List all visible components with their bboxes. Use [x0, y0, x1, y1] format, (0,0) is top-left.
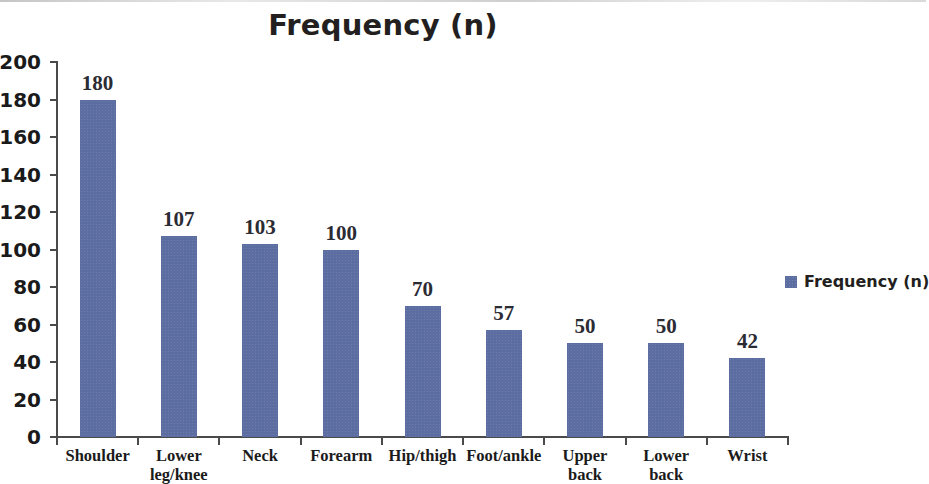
y-axis-tick-label: 180 [0, 88, 41, 112]
y-axis-tick-label: 160 [0, 125, 41, 149]
bar [486, 330, 522, 437]
y-axis-tick-label: 80 [13, 275, 41, 299]
x-axis-category-label: Upper back [544, 446, 625, 484]
bar-value-label: 180 [58, 71, 138, 96]
bar [161, 236, 197, 437]
x-axis-category-label: Lower back [626, 446, 707, 484]
y-axis-tick: 180 [50, 99, 57, 101]
y-axis-tick: 200 [50, 61, 57, 63]
x-axis-category-label: Foot/ankle [463, 446, 544, 465]
scan-artifact-line [0, 0, 926, 2]
x-axis-category-label: Lower leg/knee [138, 446, 219, 484]
bar-value-label: 57 [464, 301, 544, 326]
legend-swatch-icon [785, 276, 797, 288]
y-axis-tick: 80 [50, 286, 57, 288]
chart-legend: Frequency (n) [785, 272, 929, 291]
y-axis-tick-label: 20 [13, 388, 41, 412]
x-axis-category-label: Forearm [301, 446, 382, 465]
bar [323, 250, 359, 438]
y-axis-tick-label: 100 [0, 238, 41, 262]
y-axis-tick: 160 [50, 136, 57, 138]
y-axis-tick: 100 [50, 249, 57, 251]
y-axis-tick-label: 140 [0, 163, 41, 187]
x-axis-category-label: Shoulder [57, 446, 138, 465]
bar [242, 244, 278, 437]
y-axis-tick: 120 [50, 211, 57, 213]
bar [405, 306, 441, 437]
chart-title: Frequency (n) [0, 8, 926, 42]
plot-area: 2001801601401201008060402001801071031007… [57, 62, 788, 437]
y-axis-tick: 20 [50, 399, 57, 401]
x-axis-tick [137, 437, 139, 445]
x-axis-tick [462, 437, 464, 445]
bar-value-label: 103 [220, 215, 300, 240]
y-axis-tick-label: 40 [13, 350, 41, 374]
bar [729, 358, 765, 437]
y-axis-tick-label: 60 [13, 313, 41, 337]
x-axis-tick [218, 437, 220, 445]
x-axis-category-label: Neck [219, 446, 300, 465]
bar [80, 100, 116, 438]
bar-value-label: 50 [626, 314, 706, 339]
x-axis-tick [56, 437, 58, 445]
legend-label: Frequency (n) [804, 272, 929, 291]
x-axis-tick [300, 437, 302, 445]
y-axis-tick-label: 200 [0, 50, 41, 74]
y-axis-tick: 140 [50, 174, 57, 176]
x-axis-tick [787, 437, 789, 445]
y-axis-tick-label: 0 [27, 425, 41, 449]
y-axis-tick: 60 [50, 324, 57, 326]
bar-value-label: 100 [301, 221, 381, 246]
bar [648, 343, 684, 437]
y-axis-tick: 40 [50, 361, 57, 363]
x-axis-tick [543, 437, 545, 445]
x-axis-tick [625, 437, 627, 445]
x-axis-category-label: Hip/thigh [382, 446, 463, 465]
bar-value-label: 107 [139, 207, 219, 232]
y-axis-tick-label: 120 [0, 200, 41, 224]
x-axis-category-label: Wrist [707, 446, 788, 465]
x-axis-tick [381, 437, 383, 445]
bar-value-label: 42 [707, 329, 787, 354]
bar-value-label: 50 [545, 314, 625, 339]
bar-value-label: 70 [383, 277, 463, 302]
bar [567, 343, 603, 437]
x-axis-tick [706, 437, 708, 445]
